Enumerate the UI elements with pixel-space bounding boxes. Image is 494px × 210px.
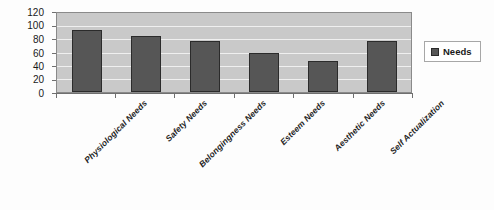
x-label-safety-needs: Safety Needs (163, 98, 209, 144)
bar-slot (116, 13, 175, 92)
x-label-self-actualization: Self Actualization (388, 98, 446, 156)
y-tick-label: 40 (33, 60, 44, 71)
bar-slot (293, 13, 352, 92)
bar-self-actualization[interactable] (367, 41, 397, 92)
bar-slot (57, 13, 116, 92)
x-label-esteem-needs: Esteem Needs (278, 98, 327, 147)
bar-esteem-needs[interactable] (249, 53, 279, 92)
bar-slot (175, 13, 234, 92)
y-tick-label: 60 (33, 47, 44, 58)
y-tick-label: 100 (27, 20, 44, 31)
x-axis-labels: Physiological Needs Safety Needs Belongi… (56, 98, 412, 198)
x-label-belongingness-needs: Belongingness Needs (197, 98, 268, 169)
x-label-physiological-needs: Physiological Needs (82, 98, 149, 165)
y-tick-label: 0 (38, 88, 44, 99)
bars-layer (57, 13, 411, 92)
plot-area (56, 12, 412, 93)
bar-slot (234, 13, 293, 92)
y-tick-label: 20 (33, 74, 44, 85)
bar-physiological-needs[interactable] (72, 30, 102, 92)
bar-chart: 120 100 80 60 40 20 0 (0, 0, 494, 210)
x-label-aesthetic-needs: Aesthetic Needs (332, 98, 387, 153)
bar-slot (352, 13, 411, 92)
y-axis: 120 100 80 60 40 20 0 (8, 12, 48, 93)
legend-label: Needs (443, 46, 472, 57)
bar-aesthetic-needs[interactable] (308, 61, 338, 92)
x-tick-mark (412, 94, 413, 98)
chart-legend[interactable]: Needs (424, 41, 481, 62)
y-tick-label: 80 (33, 33, 44, 44)
legend-swatch-icon (431, 48, 439, 56)
y-tick-label: 120 (27, 7, 44, 18)
bar-belongingness-needs[interactable] (190, 41, 220, 92)
bar-safety-needs[interactable] (131, 36, 161, 92)
